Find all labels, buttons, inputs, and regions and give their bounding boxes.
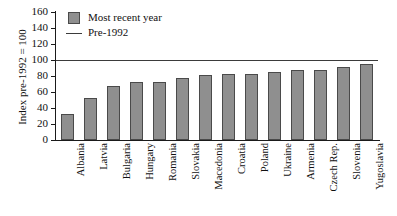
y-axis-tick-label: 100: [32, 53, 49, 66]
y-axis-tick: 0: [51, 140, 56, 141]
y-axis-tick-label: 140: [32, 21, 49, 34]
bar-macedonia: [199, 75, 213, 140]
y-axis-tick-label: 20: [37, 117, 48, 130]
bar-poland: [245, 74, 259, 140]
x-axis-label: Yugoslavia: [371, 143, 382, 190]
x-axis-label: Czech Rep.: [325, 143, 336, 191]
x-axis-label: Latvia: [95, 143, 106, 170]
legend-label: Most recent year: [88, 10, 162, 24]
legend-item-most-recent-year: Most recent year: [66, 11, 226, 25]
y-axis-title: Index pre-1992 = 100: [16, 12, 28, 142]
y-axis-tick-label: 80: [37, 69, 48, 82]
y-axis-tick-label: 40: [37, 101, 48, 114]
bar-bulgaria: [107, 86, 121, 140]
x-axis-label: Ukraine: [279, 143, 290, 177]
pre-1992-reference-line: [56, 60, 378, 61]
legend-label: Pre-1992: [88, 25, 128, 39]
bar-ukraine: [268, 72, 282, 140]
bar-romania: [153, 82, 167, 140]
x-axis-label: Slovenia: [348, 143, 359, 180]
x-axis-label: Bulgaria: [118, 143, 129, 179]
x-axis-label: Poland: [256, 143, 267, 172]
legend-swatch-icon: [68, 12, 80, 24]
y-axis-tick-label: 60: [37, 85, 48, 98]
bar-armenia: [291, 70, 305, 140]
legend-line-icon: [66, 33, 82, 34]
x-axis-label: Albania: [72, 143, 83, 176]
x-axis-label: Armenia: [302, 143, 313, 180]
bar-slovenia: [337, 67, 351, 140]
bar-chart: Index pre-1992 = 100 1601401201008060402…: [0, 0, 397, 216]
bar-latvia: [84, 98, 98, 140]
x-axis-label: Hungary: [141, 143, 152, 180]
y-axis-tick-label: 160: [32, 5, 49, 18]
y-axis-tick-label: 0: [43, 133, 49, 146]
bar-croatia: [222, 74, 236, 140]
bar-hungary: [130, 82, 144, 140]
bar-albania: [61, 114, 75, 140]
x-axis-label: Macedonia: [210, 143, 221, 190]
x-axis-labels: AlbaniaLatviaBulgariaHungaryRomaniaSlova…: [56, 143, 378, 215]
bar-yugoslavia: [360, 64, 374, 140]
y-axis-tick-label: 120: [32, 37, 49, 50]
x-axis-label: Romania: [164, 143, 175, 181]
bar-slovakia: [176, 78, 190, 140]
bar-czech-rep: [314, 70, 328, 140]
x-axis-label: Slovakia: [187, 143, 198, 180]
legend-item-pre-1992: Pre-1992: [66, 26, 226, 40]
chart-legend: Most recent year Pre-1992: [66, 11, 226, 41]
x-axis-line: [55, 140, 380, 141]
x-axis-label: Croatia: [233, 143, 244, 174]
